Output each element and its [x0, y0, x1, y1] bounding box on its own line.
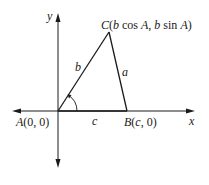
- vertex-A-label: A(0, 0): [15, 115, 49, 129]
- vertex-C-sin: sin: [160, 18, 180, 32]
- vertex-C-cos: cos: [119, 18, 141, 32]
- vertex-B-label: B(c, 0): [124, 115, 157, 129]
- y-axis-down-arrow-icon: [56, 159, 61, 168]
- x-axis-left-arrow-icon: [12, 109, 21, 114]
- side-c-label: c: [92, 114, 98, 128]
- triangle-coordinate-diagram: y x C(b cos A, b sin A) b a c A(0, 0) B(…: [0, 0, 209, 185]
- vertex-B-rest: , 0): [141, 115, 157, 129]
- y-axis: [56, 13, 61, 168]
- vertex-C-label: C(b cos A, b sin A): [101, 18, 192, 32]
- x-axis-right-arrow-icon: [186, 109, 195, 114]
- side-a-label: a: [122, 65, 128, 79]
- vertex-A-coords: (0, 0): [23, 115, 49, 129]
- side-b: [58, 32, 109, 111]
- triangle: [58, 32, 127, 111]
- side-b-label: b: [75, 60, 81, 74]
- vertex-C-paren-close: ): [188, 18, 192, 32]
- y-axis-up-arrow-icon: [56, 13, 61, 22]
- x-axis-label: x: [188, 114, 195, 128]
- y-axis-label: y: [46, 9, 53, 23]
